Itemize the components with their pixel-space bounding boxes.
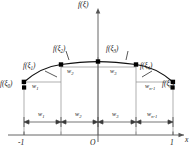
weight-dimension-arrows: [24, 120, 173, 124]
node-marker-0: [22, 80, 26, 84]
leader-node3: [126, 51, 128, 60]
quadrature-figure: f(ξ) x O -1 1 f(ξ0) f(ξ1) f(ξ2) f(ξ3) f(…: [0, 0, 195, 161]
dim-arrow-2-left: [61, 120, 66, 124]
step-top-segments: [24, 67, 173, 82]
dim-arrow-1-left: [24, 120, 29, 124]
dim-arrow-4-right: [168, 120, 173, 124]
node-marker-4: [171, 80, 175, 84]
leader-node2: [66, 51, 69, 60]
node-marker-1: [59, 62, 63, 66]
y-axis-arrow: [96, 8, 101, 14]
endpoint-marker-left: [22, 85, 26, 89]
x-axis-arrow: [179, 133, 185, 138]
dim-arrow-3-left: [98, 120, 103, 124]
node-marker-2: [96, 59, 100, 63]
x-axis: [8, 132, 184, 138]
figure-canvas: [0, 0, 195, 161]
dim-arrow-4-left: [136, 120, 141, 124]
leader-node1: [45, 71, 57, 77]
leader-node4: [142, 71, 152, 77]
endpoint-marker-right: [171, 85, 175, 89]
node-marker-3: [134, 62, 138, 66]
